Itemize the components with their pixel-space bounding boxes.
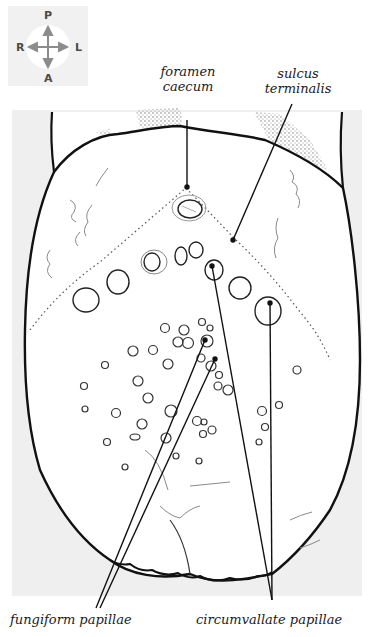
label-foramen-caecum-line1: foramen: [150, 64, 226, 79]
label-foramen-caecum-line2: caecum: [150, 79, 226, 94]
tongue-diagram: P A R L: [0, 0, 371, 637]
label-sulcus-terminalis: sulcus terminalis: [258, 66, 338, 96]
label-sulcus-terminalis-line1: sulcus: [258, 66, 338, 81]
label-foramen-caecum: foramen caecum: [150, 64, 226, 94]
label-sulcus-terminalis-line2: terminalis: [258, 81, 338, 96]
label-circumvallate-papillae: circumvallate papillae: [196, 612, 342, 627]
label-fungiform-papillae: fungiform papillae: [10, 612, 132, 627]
